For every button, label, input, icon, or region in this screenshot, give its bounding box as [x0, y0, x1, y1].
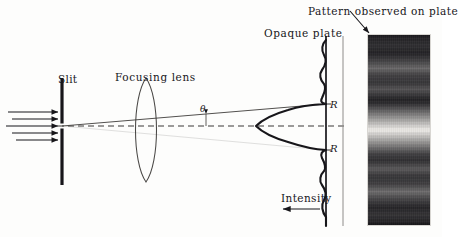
focusing-lens — [136, 78, 157, 182]
label-r-bottom: R — [330, 143, 338, 154]
label-intensity: Intensity — [281, 192, 332, 204]
label-slit: Slit — [58, 73, 77, 85]
label-r-top: R — [330, 99, 338, 110]
incoming-rays-group — [6, 112, 58, 140]
label-theta-angle: θ — [200, 104, 206, 114]
diffracted-ray-upper — [62, 104, 326, 126]
label-focusing-lens: Focusing lens — [115, 71, 196, 83]
photo-grain-texture — [368, 35, 430, 225]
pattern-photo-plate — [368, 35, 430, 225]
label-pattern-observed: Pattern observed on plate — [308, 5, 458, 17]
label-opaque-plate: Opaque plate — [264, 27, 343, 39]
diffracted-ray-lower — [62, 126, 326, 150]
